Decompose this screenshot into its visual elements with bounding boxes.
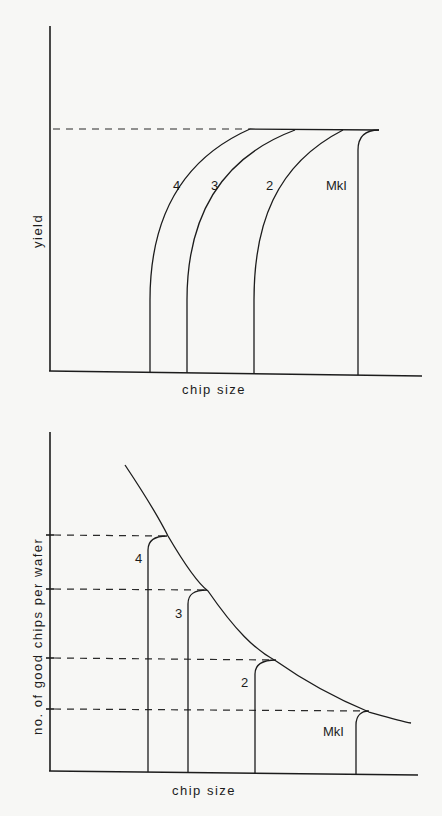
- yield-chart: 4 3 2 MkI chip size yield: [30, 26, 422, 397]
- good-chips-envelope-curve: [125, 465, 411, 723]
- curve-mk1: [358, 130, 379, 375]
- dashed-line-4: [54, 535, 165, 536]
- label-4: 4: [173, 178, 180, 193]
- label-mk1: MkI: [323, 724, 344, 739]
- label-3: 3: [211, 178, 218, 193]
- figure: 4 3 2 MkI chip size yield 4 3 2 MkI chip…: [0, 0, 442, 816]
- curve-3: [187, 130, 295, 373]
- y-axis-label: yield: [30, 214, 45, 248]
- dashed-line-mk1: [54, 709, 368, 711]
- curve-4: [150, 129, 250, 372]
- good-chips-chart: 4 3 2 MkI chip size no. of good chips pe…: [30, 432, 418, 798]
- y-axis-label: no. of good chips per wafer: [30, 538, 45, 735]
- yield-plateau: [250, 129, 379, 130]
- label-4: 4: [135, 551, 142, 566]
- curve-2: [254, 130, 343, 374]
- x-axis-label: chip size: [172, 783, 236, 798]
- x-axis-label: chip size: [182, 382, 246, 397]
- label-2: 2: [241, 675, 248, 690]
- dashed-line-2: [54, 658, 275, 660]
- x-axis: [49, 771, 418, 775]
- label-2: 2: [266, 178, 273, 193]
- curve-3: [188, 590, 207, 773]
- curve-2: [255, 660, 276, 774]
- curve-mk1: [356, 711, 369, 775]
- curve-4: [148, 536, 167, 772]
- label-mk1: MkI: [326, 178, 347, 193]
- x-axis: [49, 371, 422, 376]
- label-3: 3: [175, 606, 182, 621]
- dashed-line-3: [54, 589, 206, 590]
